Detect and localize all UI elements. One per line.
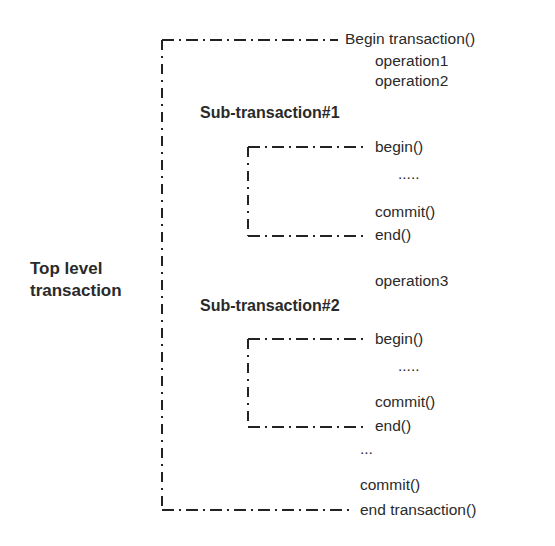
operation1-label: operation1: [375, 52, 448, 70]
sub-transaction-2-title: Sub-transaction#2: [200, 297, 340, 315]
sub2-ellipsis: .....: [398, 357, 420, 375]
sub2-begin-label: begin(): [375, 330, 423, 348]
sub1-begin-label: begin(): [375, 138, 423, 156]
operation3-label: operation3: [375, 272, 448, 290]
sub2-end-label: end(): [375, 417, 411, 435]
top-ellipsis: ...: [360, 440, 373, 458]
begin-transaction-label: Begin transaction(): [345, 30, 475, 48]
end-transaction-label: end transaction(): [360, 501, 476, 519]
sub1-commit-label: commit(): [375, 203, 435, 221]
operation2-label: operation2: [375, 72, 448, 90]
sub1-end-label: end(): [375, 226, 411, 244]
top-level-label-line1: Top level: [30, 260, 102, 278]
top-level-label-line2: transaction: [30, 282, 122, 300]
sub2-commit-label: commit(): [375, 393, 435, 411]
top-commit-label: commit(): [360, 476, 420, 494]
sub-transaction-1-title: Sub-transaction#1: [200, 104, 340, 122]
sub1-ellipsis: .....: [398, 165, 420, 183]
sub-transaction-1-bracket: [248, 147, 366, 236]
sub-transaction-2-bracket: [248, 339, 366, 427]
